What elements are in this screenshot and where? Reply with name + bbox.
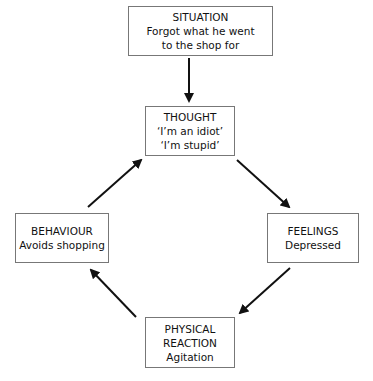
node-title: BEHAVIOUR <box>31 224 93 238</box>
node-title: FEELINGS <box>288 224 339 238</box>
node-situation: SITUATION Forgot what he went to the sho… <box>128 6 273 56</box>
node-text: Avoids shopping <box>19 238 105 252</box>
node-title: REACTION <box>163 336 217 350</box>
arrow-thought-to-feelings <box>237 160 289 207</box>
node-text: Depressed <box>285 238 341 252</box>
node-title: PHYSICAL <box>165 322 216 336</box>
node-thought: THOUGHT ‘I’m an idiot’ ‘I’m stupid’ <box>145 106 235 156</box>
node-behaviour: BEHAVIOUR Avoids shopping <box>15 213 109 263</box>
node-text: Agitation <box>166 350 213 364</box>
arrow-feelings-to-physical <box>240 268 290 313</box>
node-title: THOUGHT <box>164 110 217 124</box>
arrow-physical-to-behaviour <box>91 270 136 317</box>
node-text: ‘I’m stupid’ <box>160 138 219 152</box>
node-feelings: FEELINGS Depressed <box>267 213 359 263</box>
node-text: to the shop for <box>162 38 239 52</box>
node-text: ‘I’m an idiot’ <box>157 124 223 138</box>
node-physical-reaction: PHYSICAL REACTION Agitation <box>145 317 235 368</box>
arrow-behaviour-to-thought <box>88 160 141 207</box>
node-text: Forgot what he went <box>146 24 254 38</box>
node-title: SITUATION <box>173 10 229 24</box>
